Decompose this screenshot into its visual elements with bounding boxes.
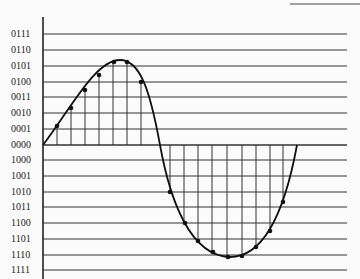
sample-stems-negative xyxy=(170,145,283,257)
sine-diagram xyxy=(0,0,360,279)
level-grid xyxy=(43,34,347,270)
